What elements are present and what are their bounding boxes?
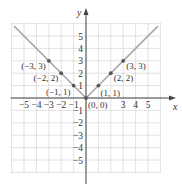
point-label: (−2, 2) — [34, 73, 59, 83]
x-tick-label: −4 — [31, 100, 41, 110]
y-tick-label: −4 — [73, 143, 83, 153]
x-tick-label: −2 — [56, 100, 66, 110]
y-tick-label: −1 — [73, 106, 83, 116]
data-point — [121, 59, 125, 63]
y-axis-arrow-icon — [84, 8, 89, 15]
point-label: (3, 3) — [126, 61, 146, 71]
axes: xy — [11, 7, 178, 184]
x-axis-label: x — [172, 101, 178, 112]
point-label: (2, 2) — [114, 73, 134, 83]
y-tick-label: 1 — [78, 81, 83, 91]
point-label: (0, 0) — [88, 100, 108, 110]
point-label: (−3, 3) — [21, 61, 46, 71]
x-axis-arrow-icon — [169, 96, 176, 101]
data-point — [109, 71, 113, 75]
x-tick-label: −3 — [44, 100, 54, 110]
y-tick-label: 3 — [78, 56, 83, 66]
x-tick-label: 3 — [121, 100, 126, 110]
y-tick-label: −2 — [73, 118, 83, 128]
x-tick-label: −5 — [19, 100, 29, 110]
y-tick-label: 5 — [78, 32, 83, 42]
coordinate-plane: xy −5−4−3−2−134554321−1−2−3−4−5 (−3, 3)(… — [0, 0, 182, 190]
point-label: (−1, 1) — [46, 87, 71, 97]
data-point — [47, 59, 51, 63]
point-label: (1, 1) — [100, 88, 120, 98]
data-point — [59, 71, 63, 75]
y-tick-label: 4 — [78, 44, 83, 54]
y-axis-label: y — [76, 7, 82, 18]
x-tick-label: 5 — [146, 100, 151, 110]
x-tick-label: 4 — [133, 100, 138, 110]
y-tick-label: −5 — [73, 156, 83, 166]
y-tick-label: −3 — [73, 131, 83, 141]
data-point — [72, 84, 76, 88]
y-tick-label: 2 — [78, 69, 83, 79]
